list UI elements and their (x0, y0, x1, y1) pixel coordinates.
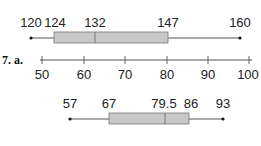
tick-label-100: 100 (237, 67, 259, 82)
tick-label-60: 60 (77, 67, 91, 82)
top-label-min: 120 (20, 15, 42, 30)
top-boxplot: 120 124 132 147 160 (20, 15, 251, 43)
top-label-max: 160 (229, 15, 251, 30)
problem-label: 7. a. (2, 53, 23, 67)
bottom-label-q1: 67 (102, 96, 116, 111)
bottom-label-max: 93 (216, 96, 230, 111)
bottom-max-dot (221, 117, 224, 120)
bottom-boxplot: 57 67 79.5 86 93 (63, 96, 230, 124)
tick-label-80: 80 (160, 67, 174, 82)
top-label-q3: 147 (157, 15, 179, 30)
top-label-median: 132 (84, 15, 106, 30)
bottom-label-min: 57 (63, 96, 77, 111)
top-label-q1: 124 (44, 15, 66, 30)
tick-label-70: 70 (118, 67, 132, 82)
bottom-min-dot (68, 117, 71, 120)
tick-label-50: 50 (35, 67, 49, 82)
top-min-dot (29, 36, 32, 39)
tick-label-90: 90 (201, 67, 215, 82)
top-max-dot (238, 36, 241, 39)
figure: 120 124 132 147 160 7. a. 50 60 70 80 90… (0, 0, 261, 146)
bottom-box (109, 113, 189, 124)
top-box (54, 32, 168, 43)
bottom-label-median: 79.5 (151, 96, 176, 111)
bottom-label-q3: 86 (184, 96, 198, 111)
number-line-axis: 50 60 70 80 90 100 (35, 56, 259, 82)
